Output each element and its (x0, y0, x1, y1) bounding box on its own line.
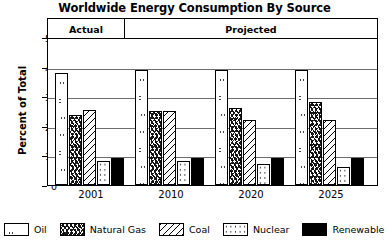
grid-and-bars (48, 39, 377, 185)
bar-group (135, 37, 209, 185)
legend-swatch-oil-icon (4, 223, 29, 236)
bar-group (55, 37, 129, 185)
chart-container: Worldwide Energy Consumption By Source P… (0, 0, 389, 245)
legend-label: Nuclear (253, 224, 290, 235)
legend-item: Renewable (302, 223, 389, 236)
bar-renewable (271, 158, 284, 185)
legend-label: Coal (189, 224, 210, 235)
x-tick-label: 2001 (51, 189, 131, 200)
bar-oil (55, 73, 68, 185)
x-tick-label: 2010 (131, 189, 211, 200)
legend-item: Oil (4, 223, 60, 236)
band-label-actual: Actual (48, 19, 125, 39)
bar-coal (163, 111, 176, 185)
bar-natural-gas (149, 111, 162, 185)
bar-renewable (351, 158, 364, 185)
y-axis-title: Percent of Total (17, 41, 28, 181)
bar-nuclear (337, 167, 350, 185)
bar-coal (323, 120, 336, 185)
bar-nuclear (97, 161, 110, 185)
legend-label: Natural Gas (90, 224, 146, 235)
legend-item: Coal (159, 223, 223, 236)
bar-natural-gas (229, 108, 242, 185)
plot-area: Actual Projected (47, 18, 378, 186)
bar-natural-gas (69, 115, 82, 185)
bar-renewable (111, 158, 124, 185)
bar-oil (135, 70, 148, 185)
legend-swatch-renewable-icon (302, 223, 327, 236)
bar-natural-gas (309, 102, 322, 185)
period-band: Actual Projected (48, 19, 377, 39)
legend-item: Natural Gas (60, 223, 159, 236)
legend-item: Nuclear (223, 223, 303, 236)
bar-renewable (191, 158, 204, 185)
x-tick-label: 2025 (291, 189, 371, 200)
bar-nuclear (177, 161, 190, 185)
legend-swatch-nuclear-icon (223, 223, 248, 236)
bar-nuclear (257, 164, 270, 185)
bar-oil (215, 70, 228, 185)
legend-swatch-coal-icon (159, 223, 184, 236)
x-tick-label: 2020 (211, 189, 291, 200)
legend-label: Renewable (332, 224, 384, 235)
bar-coal (83, 110, 96, 185)
chart-title: Worldwide Energy Consumption By Source (0, 1, 389, 15)
y-tick-mark (42, 186, 47, 187)
legend-label: Oil (34, 224, 47, 235)
bar-oil (295, 70, 308, 185)
legend-swatch-natural-gas-icon (60, 223, 85, 236)
bar-group (215, 37, 289, 185)
bar-group (295, 37, 369, 185)
band-label-projected: Projected (125, 19, 377, 39)
bar-coal (243, 120, 256, 185)
chart-legend: OilNatural GasCoalNuclearRenewable (4, 219, 387, 239)
